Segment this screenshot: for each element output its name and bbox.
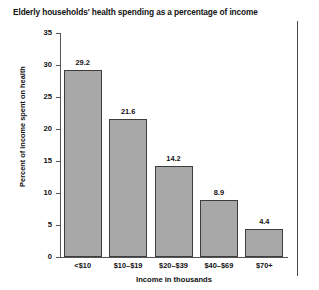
y-axis-tick-label: 35 — [22, 29, 52, 37]
y-axis-tick-label: 15 — [22, 157, 52, 165]
y-axis-tick-label: 0 — [22, 253, 52, 261]
x-axis-tick-label: $70+ — [236, 261, 292, 270]
chart-title: Elderly households' health spending as a… — [13, 7, 303, 17]
x-axis-title: Income in thousands — [60, 275, 288, 284]
x-axis-line — [60, 257, 288, 258]
y-axis-tick-label: 20 — [22, 125, 52, 133]
bar — [245, 229, 283, 257]
bar-value-label: 21.6 — [108, 108, 148, 116]
bar-chart-figure: Elderly households' health spending as a… — [0, 0, 319, 290]
bar-value-label: 14.2 — [154, 155, 194, 163]
y-axis-tick-label: 5 — [22, 221, 52, 229]
bar — [155, 166, 193, 257]
y-axis-tick — [56, 257, 60, 258]
y-axis-tick-label: 30 — [22, 61, 52, 69]
y-axis-title: Percent of income spent on health — [18, 62, 27, 192]
bar — [64, 70, 102, 257]
bar — [109, 119, 147, 257]
bar-value-label: 4.4 — [244, 218, 284, 226]
bar — [200, 200, 238, 257]
y-axis-tick-label: 10 — [22, 189, 52, 197]
bar-value-label: 8.9 — [199, 189, 239, 197]
y-axis-tick-label: 25 — [22, 93, 52, 101]
plot-frame-right-border — [297, 21, 298, 276]
bar-value-label: 29.2 — [63, 59, 103, 67]
